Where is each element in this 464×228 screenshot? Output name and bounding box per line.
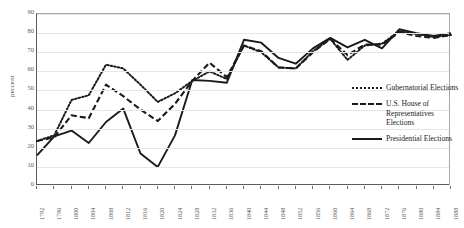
x-axis-tick-label: 1880 (418, 208, 424, 220)
x-axis-tick-label: 1848 (280, 208, 286, 220)
x-axis-tick-label: 1868 (366, 208, 372, 220)
x-axis-tick (312, 186, 313, 189)
legend-item[interactable]: Presidential Elections (352, 134, 464, 143)
x-axis-tick (105, 186, 106, 189)
x-axis-tick-label: 1844 (263, 208, 269, 220)
legend-item-label: U.S. House of Representatives Elections (386, 99, 464, 127)
x-axis-tick-label: 1820 (159, 208, 165, 220)
x-axis-tick-label: 1800 (73, 208, 79, 220)
x-axis-tick-label: 1812 (125, 208, 131, 220)
x-axis-tick-label: 1832 (211, 208, 217, 220)
x-axis-tick-label: 1884 (435, 208, 441, 220)
x-axis-tick (88, 186, 89, 189)
legend-item[interactable]: Gubernatorial Elections (352, 83, 464, 92)
x-axis-line (37, 184, 449, 185)
x-axis-tick-label: 1852 (297, 208, 303, 220)
x-axis-tick (174, 186, 175, 189)
x-axis-tick (36, 186, 37, 189)
legend-item-label: Gubernatorial Elections (386, 83, 464, 92)
turnout-line-chart: 0102030405060708090 percent 179217961800… (0, 0, 464, 228)
gridline (37, 167, 449, 168)
y-axis-tick-label: 30 (12, 124, 34, 131)
x-axis-tick (71, 186, 72, 189)
x-axis-tick (209, 186, 210, 189)
x-axis-tick-label: 1876 (401, 208, 407, 220)
x-axis-tick-label: 1864 (349, 208, 355, 220)
x-axis-tick (278, 186, 279, 189)
gridline (37, 14, 449, 15)
x-axis-tick (191, 186, 192, 189)
x-axis-tick (122, 186, 123, 189)
x-axis-tick (347, 186, 348, 189)
gridline (37, 52, 449, 53)
y-axis-title: percent (8, 56, 16, 116)
y-axis-tick-label: 90 (12, 9, 34, 16)
x-axis-tick-label: 1872 (384, 208, 390, 220)
legend-item-label: Presidential Elections (386, 134, 464, 143)
x-axis-tick-label: 1836 (228, 208, 234, 220)
x-axis: 1792179618001804180818121816182018241828… (36, 186, 450, 228)
legend-swatch-dotted-icon (352, 87, 382, 92)
x-axis-tick (53, 186, 54, 189)
x-axis-tick (398, 186, 399, 189)
x-axis-tick-label: 1824 (177, 208, 183, 220)
x-axis-tick (295, 186, 296, 189)
x-axis-tick (329, 186, 330, 189)
y-axis-tick-label: 10 (12, 162, 34, 169)
x-axis-tick-label: 1840 (246, 208, 252, 220)
gridline (37, 33, 449, 34)
x-axis-tick (226, 186, 227, 189)
x-axis-tick (381, 186, 382, 189)
x-axis-tick (364, 186, 365, 189)
x-axis-tick (260, 186, 261, 189)
x-axis-tick-label: 1828 (194, 208, 200, 220)
x-axis-tick (157, 186, 158, 189)
x-axis-tick-label: 1860 (332, 208, 338, 220)
x-axis-tick (140, 186, 141, 189)
legend: Gubernatorial ElectionsU.S. House of Rep… (352, 83, 464, 150)
x-axis-tick-label: 1792 (39, 208, 45, 220)
x-axis-tick (433, 186, 434, 189)
x-axis-tick-label: 1856 (315, 208, 321, 220)
x-axis-tick (243, 186, 244, 189)
y-axis-tick-label: 70 (12, 47, 34, 54)
x-axis-tick-label: 1816 (142, 208, 148, 220)
x-axis-tick (450, 186, 451, 189)
legend-swatch-dashed-icon (352, 103, 382, 108)
x-axis-tick-label: 1808 (108, 208, 114, 220)
legend-item[interactable]: U.S. House of Representatives Elections (352, 99, 464, 127)
y-axis-tick-label: 0 (12, 181, 34, 188)
x-axis-tick-label: 1796 (56, 208, 62, 220)
x-axis-tick-label: 1888 (453, 208, 459, 220)
legend-swatch-solid-icon (352, 138, 382, 143)
y-axis-tick-label: 20 (12, 143, 34, 150)
gridline (37, 71, 449, 72)
x-axis-tick (416, 186, 417, 189)
x-axis-tick-label: 1804 (90, 208, 96, 220)
y-axis-tick-label: 80 (12, 28, 34, 35)
